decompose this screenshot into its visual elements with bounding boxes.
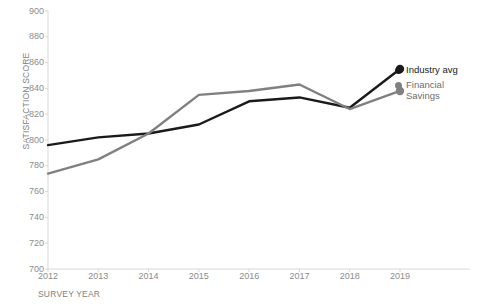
legend-label-industry-avg: Industry avg	[406, 64, 458, 76]
legend-label-financial-savings: Financial Savings	[406, 79, 444, 102]
plot-area	[0, 0, 478, 308]
legend-item-financial-savings: Financial Savings	[406, 79, 478, 102]
legend-marker-industry-avg	[395, 67, 402, 74]
axis-tick-marks	[45, 11, 400, 272]
legend-label-financial-savings-line2: Savings	[406, 90, 440, 101]
chart-legend: Industry avg Financial Savings	[406, 64, 478, 105]
satisfaction-score-line-chart: SATISFACTION SCORE SURVEY YEAR 900880860…	[0, 0, 478, 308]
legend-label-financial-savings-line1: Financial	[406, 79, 444, 90]
axis-lines	[48, 11, 470, 269]
series-lines	[48, 69, 400, 173]
legend-marker-financial-savings	[395, 82, 402, 89]
legend-item-industry-avg: Industry avg	[406, 64, 478, 76]
